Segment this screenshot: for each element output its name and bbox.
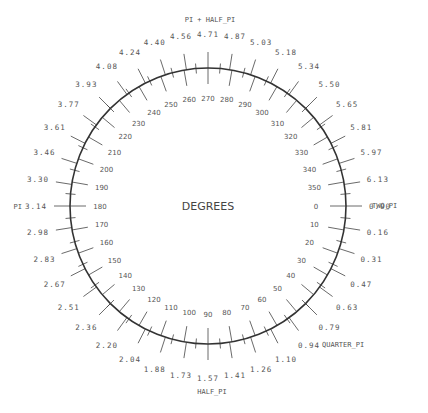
- radian-tick: [251, 60, 256, 75]
- degree-tick: [184, 326, 187, 342]
- radian-label: 1.57: [197, 374, 219, 383]
- radian-label: 5.50: [319, 80, 341, 89]
- radian-label: 5.97: [361, 148, 383, 157]
- named-angle-label: HALF_PI: [197, 388, 227, 396]
- degree-tick: [250, 321, 255, 336]
- radian-label: 3.14: [25, 202, 47, 211]
- radian-tick: [320, 287, 333, 296]
- degree-label: 190: [95, 184, 108, 192]
- degree-label: 290: [238, 101, 251, 109]
- radian-label: 0.47: [350, 280, 372, 289]
- radian-label: 4.56: [170, 32, 192, 41]
- radian-tick: [117, 318, 126, 331]
- degree-label: 0: [314, 203, 318, 211]
- angle-dial-diagram: 0102030405060708090100110120130140150160…: [0, 0, 428, 413]
- degree-tick: [139, 86, 147, 100]
- degree-tick: [323, 159, 338, 164]
- radian-label: 4.71: [197, 30, 219, 39]
- degree-label: 120: [147, 296, 160, 304]
- degree-tick: [314, 267, 328, 275]
- radian-tick: [331, 269, 345, 276]
- degree-tick: [229, 326, 232, 342]
- radian-tick: [271, 329, 278, 343]
- degree-tick: [286, 100, 296, 112]
- degree-tick: [301, 117, 313, 127]
- named-angle-label: TWO_PI: [372, 202, 397, 210]
- radian-tick: [56, 228, 72, 231]
- radian-label: 2.51: [58, 303, 80, 312]
- radian-label: 0.16: [367, 228, 389, 237]
- radian-label: 1.73: [170, 371, 192, 380]
- degree-tick: [269, 312, 277, 326]
- degree-label: 220: [119, 133, 132, 141]
- degree-label: 30: [297, 257, 306, 265]
- radian-label: 5.03: [250, 38, 272, 47]
- degree-label: 180: [93, 203, 106, 211]
- center-title: DEGREES: [182, 200, 234, 213]
- radian-tick: [331, 136, 345, 143]
- radian-tick: [230, 342, 233, 358]
- degree-label: 140: [119, 272, 132, 280]
- radian-tick: [71, 269, 85, 276]
- degree-tick: [269, 86, 277, 100]
- radian-label: 5.81: [350, 123, 372, 132]
- degree-tick: [328, 182, 344, 185]
- radian-label: 1.26: [250, 365, 272, 374]
- degree-tick: [161, 321, 166, 336]
- radian-label: 5.65: [336, 100, 358, 109]
- degree-tick: [88, 137, 102, 145]
- radian-tick: [62, 249, 77, 254]
- radian-tick: [271, 69, 278, 83]
- degree-tick: [139, 312, 147, 326]
- degree-label: 330: [295, 149, 308, 157]
- radian-label: 0.31: [361, 255, 383, 264]
- radian-label: 1.88: [144, 365, 166, 374]
- radian-tick: [138, 69, 145, 83]
- radian-tick: [99, 304, 110, 315]
- degree-tick: [184, 70, 187, 86]
- radian-label: 0.94: [298, 341, 320, 350]
- degree-label: 300: [255, 109, 268, 117]
- radian-tick: [184, 342, 187, 358]
- radian-tick: [230, 54, 233, 70]
- radian-tick: [160, 60, 165, 75]
- radian-tick: [344, 182, 360, 185]
- radian-label: 4.87: [224, 32, 246, 41]
- degree-label: 70: [240, 304, 249, 312]
- degree-tick: [229, 70, 232, 86]
- degree-label: 10: [310, 221, 319, 229]
- degree-tick: [301, 284, 313, 294]
- degree-label: 240: [147, 109, 160, 117]
- radian-tick: [320, 115, 333, 124]
- degree-label: 230: [132, 120, 145, 128]
- radian-tick: [117, 81, 126, 94]
- radian-label: 2.36: [75, 323, 97, 332]
- named-angle-label: PI: [14, 203, 22, 211]
- radian-label: 3.61: [44, 123, 66, 132]
- radian-label: 4.08: [96, 62, 118, 71]
- degree-tick: [328, 227, 344, 230]
- radian-label: 0.79: [319, 323, 341, 332]
- degree-label: 50: [273, 285, 282, 293]
- degree-label: 60: [258, 296, 267, 304]
- radian-tick: [62, 158, 77, 163]
- degree-tick: [323, 248, 338, 253]
- radian-label: 0.63: [336, 303, 358, 312]
- degree-label: 100: [183, 309, 196, 317]
- degree-label: 110: [164, 304, 177, 312]
- degree-label: 270: [201, 95, 214, 103]
- degree-label: 250: [164, 101, 177, 109]
- radian-tick: [289, 318, 298, 331]
- degree-label: 320: [284, 133, 297, 141]
- degree-tick: [78, 248, 93, 253]
- radian-tick: [71, 136, 85, 143]
- degree-label: 20: [305, 239, 314, 247]
- degree-tick: [314, 137, 328, 145]
- radian-tick: [306, 97, 317, 108]
- radian-label: 4.24: [119, 48, 141, 57]
- radian-label: 1.10: [275, 355, 297, 364]
- degree-label: 160: [100, 239, 113, 247]
- radian-label: 1.41: [224, 371, 246, 380]
- radian-label: 6.13: [367, 175, 389, 184]
- radian-label: 3.46: [33, 148, 55, 157]
